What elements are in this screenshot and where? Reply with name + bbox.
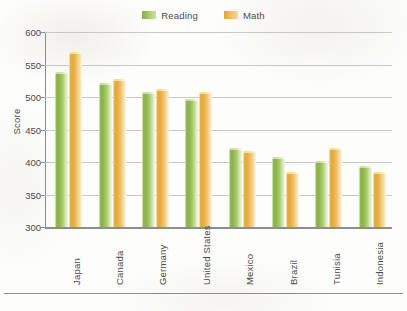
legend-entry-reading: Reading (142, 10, 198, 21)
x-axis-label-indonesia: Indonesia (374, 242, 385, 285)
y-axis-title: Score (11, 92, 22, 152)
bar-top-highlight (199, 92, 212, 94)
y-tick-mark (41, 130, 45, 131)
bar-top-highlight (373, 172, 386, 174)
y-tick-label: 400 (25, 157, 41, 168)
y-tick-label: 350 (25, 189, 41, 200)
bar-group (229, 32, 256, 227)
y-tick-label: 500 (25, 92, 41, 103)
x-axis-line (45, 227, 392, 229)
y-tick-mark (41, 97, 45, 98)
bar-reading-tunisia[interactable] (315, 161, 328, 227)
y-tick-mark (41, 32, 45, 33)
y-tick-label: 550 (25, 59, 41, 70)
bar-top-highlight (329, 148, 342, 150)
bar-top-highlight (359, 166, 372, 168)
bar-group (272, 32, 299, 227)
legend-entry-math: Math (224, 10, 265, 21)
bar-reading-japan[interactable] (55, 72, 68, 227)
bar-group (55, 32, 82, 227)
bar-math-mexico[interactable] (243, 151, 256, 227)
page-bottom-rule (4, 293, 403, 294)
bar-top-highlight (286, 172, 299, 174)
x-axis-label-brazil: Brazil (288, 260, 299, 285)
bar-group (142, 32, 169, 227)
y-tick-label: 300 (25, 222, 41, 233)
bar-group (99, 32, 126, 227)
bar-reading-brazil[interactable] (272, 157, 285, 227)
x-axis-label-mexico: Mexico (244, 254, 255, 285)
y-tick-mark (41, 195, 45, 196)
y-tick-mark (41, 162, 45, 163)
y-axis-line (45, 32, 46, 229)
x-axis-label-canada: Canada (114, 251, 125, 285)
legend-label-math: Math (243, 10, 265, 21)
bar-top-highlight (99, 83, 112, 85)
bar-math-germany[interactable] (156, 89, 169, 227)
y-tick-mark (41, 65, 45, 66)
x-axis-label-united-states: United States (201, 225, 212, 285)
legend-swatch-reading-icon (142, 11, 156, 19)
bar-top-highlight (113, 79, 126, 81)
bar-top-highlight (229, 148, 242, 150)
bar-group (315, 32, 342, 227)
bar-math-brazil[interactable] (286, 172, 299, 227)
plot-area: 300350400450500550600 (45, 32, 392, 229)
bar-top-highlight (185, 99, 198, 101)
bar-reading-canada[interactable] (99, 83, 112, 227)
bar-group (359, 32, 386, 227)
bar-math-canada[interactable] (113, 79, 126, 227)
bar-group (185, 32, 212, 227)
bar-reading-indonesia[interactable] (359, 166, 372, 227)
bar-reading-united-states[interactable] (185, 99, 198, 227)
chart-legend: Reading Math (0, 7, 407, 23)
bar-top-highlight (243, 151, 256, 153)
bar-math-indonesia[interactable] (373, 172, 386, 227)
x-axis-label-tunisia: Tunisia (331, 253, 342, 285)
y-tick-label: 450 (25, 124, 41, 135)
bar-math-tunisia[interactable] (329, 148, 342, 227)
bar-reading-germany[interactable] (142, 92, 155, 227)
grouped-bar-chart: Score 300350400450500550600 JapanCanadaG… (0, 24, 407, 286)
bar-top-highlight (272, 157, 285, 159)
bar-top-highlight (55, 72, 68, 74)
legend-swatch-math-icon (224, 11, 238, 19)
x-axis-labels: JapanCanadaGermanyUnited StatesMexicoBra… (45, 233, 392, 289)
bar-math-japan[interactable] (69, 52, 82, 228)
bar-top-highlight (156, 89, 169, 91)
bar-top-highlight (69, 52, 82, 54)
x-axis-label-japan: Japan (71, 258, 82, 285)
bar-top-highlight (142, 92, 155, 94)
x-axis-label-germany: Germany (157, 245, 168, 285)
y-tick-mark (41, 227, 45, 228)
legend-label-reading: Reading (161, 10, 198, 21)
bar-top-highlight (315, 161, 328, 163)
bar-reading-mexico[interactable] (229, 148, 242, 227)
y-tick-label: 600 (25, 27, 41, 38)
bar-math-united-states[interactable] (199, 92, 212, 227)
